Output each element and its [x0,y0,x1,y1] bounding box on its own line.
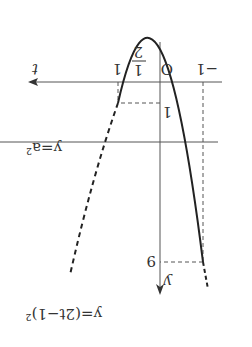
line-label: y=a² [26,139,63,157]
tick-half-den: 2 [133,43,143,61]
tick-y1: 1 [162,103,172,121]
curve-label: y=(2t−1)² [26,305,103,323]
tick-y9: 9 [146,252,156,270]
tick-t1: 1 [112,60,122,78]
parabola-left-ext [203,262,208,289]
tick-tneg1: −1 [196,60,218,78]
origin-label: O [161,60,173,78]
tick-half-num: 1 [133,61,143,79]
y-axis-label: y [163,273,173,291]
parabola-right-ext [70,103,118,275]
graph-figure: −1 O 1 2 1 t 1 9 y y=a² y=(2t−1)² [0,0,252,347]
t-axis-label: t [31,60,38,78]
